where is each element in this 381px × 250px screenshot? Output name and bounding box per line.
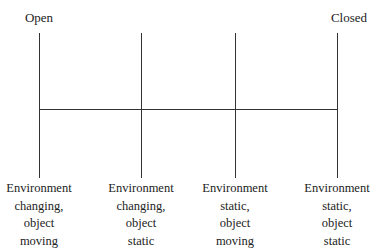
continuum-marker-4 <box>337 33 338 178</box>
label-line: static, <box>292 198 381 216</box>
label-line: object <box>292 215 381 233</box>
open-end-label: Open <box>25 10 53 25</box>
label-line: Environment <box>190 180 280 198</box>
label-line: object <box>0 215 84 233</box>
label-line: static <box>292 233 381 250</box>
continuum-marker-1 <box>39 33 40 178</box>
label-line: Environment <box>0 180 84 198</box>
open-closed-continuum-diagram: Open Closed Environment changing, object… <box>0 0 381 250</box>
label-line: static, <box>190 198 280 216</box>
label-line: changing, <box>96 198 186 216</box>
category-label-env-static-object-static: Environment static, object static <box>292 180 381 250</box>
label-line: object <box>190 215 280 233</box>
continuum-marker-2 <box>141 33 142 178</box>
category-label-env-changing-object-moving: Environment changing, object moving <box>0 180 84 250</box>
continuum-marker-3 <box>235 33 236 178</box>
label-line: static <box>96 233 186 250</box>
label-line: object <box>96 215 186 233</box>
label-line: moving <box>0 233 84 250</box>
label-line: Environment <box>292 180 381 198</box>
category-label-env-static-object-moving: Environment static, object moving <box>190 180 280 250</box>
label-line: moving <box>190 233 280 250</box>
label-line: changing, <box>0 198 84 216</box>
closed-end-label: Closed <box>331 10 367 25</box>
continuum-axis-line <box>39 109 337 110</box>
category-label-env-changing-object-static: Environment changing, object static <box>96 180 186 250</box>
label-line: Environment <box>96 180 186 198</box>
